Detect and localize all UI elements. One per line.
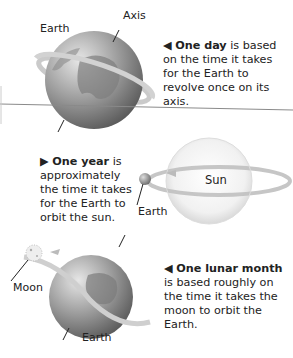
- earth-label-year: Earth: [138, 205, 168, 218]
- earth-globe-month: [24, 249, 150, 339]
- arrow-left-icon: ◀: [163, 39, 172, 52]
- earth-globe-day: [35, 31, 154, 129]
- arrow-left-icon: ◀: [164, 262, 173, 275]
- caption-lunar-month: ◀ One lunar month is based roughly on th…: [164, 262, 292, 332]
- moon-illustration: [26, 245, 42, 261]
- caption-one-day: ◀ One day is based on the time it takes …: [163, 39, 291, 109]
- small-earth-illustration: [139, 173, 151, 185]
- arrow-right-icon: ▶: [40, 155, 49, 168]
- caption-term: One year: [52, 155, 109, 168]
- axis-marker-bottom: [58, 120, 64, 132]
- moon-label: Moon: [13, 281, 43, 294]
- axis-label: Axis: [123, 9, 146, 22]
- earth-label-day: Earth: [40, 22, 70, 35]
- caption-term: One lunar month: [176, 262, 282, 275]
- earth-label-month: Earth: [82, 331, 112, 344]
- caption-one-year: ▶ One year is approximately the time it …: [40, 155, 140, 225]
- caption-term: One day: [175, 39, 226, 52]
- caption-text: is based roughly on the time it takes th…: [164, 276, 278, 331]
- sun-label: Sun: [205, 173, 227, 187]
